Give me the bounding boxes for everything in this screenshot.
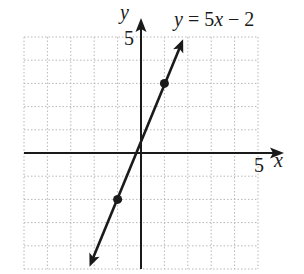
data-point (160, 79, 169, 88)
equation-x: x (214, 8, 223, 30)
coordinate-plane (0, 0, 304, 274)
axes (24, 18, 284, 269)
equation-label: y = 5x − 2 (174, 9, 254, 29)
y-axis-label: y (120, 2, 129, 22)
data-point (113, 195, 122, 204)
equation-tail: − 2 (223, 8, 254, 30)
equation-y: y (174, 8, 183, 30)
y-tick-label-5: 5 (124, 28, 134, 48)
equation-mid: = 5 (183, 8, 214, 30)
x-tick-label-5: 5 (254, 155, 264, 175)
x-axis-label: x (274, 150, 283, 170)
